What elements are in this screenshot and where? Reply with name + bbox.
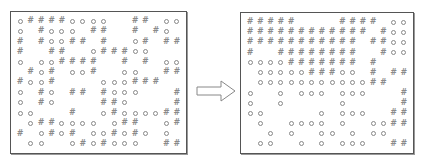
empty-cell	[317, 17, 327, 27]
empty-cell	[78, 26, 88, 36]
circle-symbol	[57, 118, 67, 128]
empty-cell	[255, 88, 265, 98]
circle-symbol	[36, 139, 46, 149]
empty-cell	[161, 77, 171, 87]
hash-symbol: #	[348, 17, 358, 27]
hash-symbol: #	[15, 47, 25, 57]
circle-symbol	[140, 108, 150, 118]
hash-symbol: #	[172, 108, 182, 118]
hash-symbol: #	[109, 47, 119, 57]
hash-symbol: #	[286, 47, 296, 57]
empty-cell	[276, 129, 286, 139]
hash-symbol: #	[67, 57, 77, 67]
empty-cell	[15, 118, 25, 128]
hash-symbol: #	[88, 26, 98, 36]
circle-symbol	[276, 68, 286, 78]
circle-symbol	[161, 118, 171, 128]
circle-symbol	[255, 108, 265, 118]
hash-symbol: #	[57, 47, 67, 57]
empty-cell	[266, 108, 276, 118]
empty-cell	[119, 26, 129, 36]
empty-cell	[151, 139, 161, 149]
hash-symbol: #	[109, 98, 119, 108]
hash-symbol: #	[36, 98, 46, 108]
empty-cell	[389, 98, 399, 108]
hash-symbol: #	[317, 58, 327, 68]
circle-symbol	[67, 139, 77, 149]
circle-symbol	[255, 78, 265, 88]
empty-cell	[286, 98, 296, 108]
circle-symbol	[140, 129, 150, 139]
circle-symbol	[161, 57, 171, 67]
circle-symbol	[67, 16, 77, 26]
empty-cell	[151, 47, 161, 57]
circle-symbol	[78, 118, 88, 128]
circle-symbol	[255, 139, 265, 149]
hash-symbol: #	[25, 67, 35, 77]
empty-cell	[358, 119, 368, 129]
hash-symbol: #	[389, 108, 399, 118]
hash-symbol: #	[140, 77, 150, 87]
circle-symbol	[25, 108, 35, 118]
hash-symbol: #	[348, 47, 358, 57]
empty-cell	[307, 98, 317, 108]
circle-symbol	[15, 98, 25, 108]
hash-symbol: #	[266, 27, 276, 37]
hash-symbol: #	[46, 118, 56, 128]
circle-symbol	[119, 77, 129, 87]
empty-cell	[358, 58, 368, 68]
hash-symbol: #	[399, 139, 409, 149]
hash-symbol: #	[337, 58, 347, 68]
hash-symbol: #	[399, 98, 409, 108]
circle-symbol	[119, 98, 129, 108]
circle-symbol	[286, 119, 296, 129]
hash-symbol: #	[46, 16, 56, 26]
circle-symbol	[348, 139, 358, 149]
hash-symbol: #	[255, 17, 265, 27]
hash-symbol: #	[368, 68, 378, 78]
hash-symbol: #	[67, 36, 77, 46]
circle-symbol	[348, 88, 358, 98]
hash-symbol: #	[36, 88, 46, 98]
empty-cell	[172, 77, 182, 87]
hash-symbol: #	[307, 37, 317, 47]
hash-symbol: #	[378, 47, 388, 57]
circle-symbol	[25, 139, 35, 149]
hash-symbol: #	[378, 27, 388, 37]
hash-symbol: #	[161, 108, 171, 118]
empty-cell	[389, 88, 399, 98]
empty-cell	[25, 36, 35, 46]
empty-cell	[25, 98, 35, 108]
empty-cell	[57, 139, 67, 149]
empty-cell	[57, 88, 67, 98]
hash-symbol: #	[358, 27, 368, 37]
circle-symbol	[88, 129, 98, 139]
after-grid-panel: ########################################…	[240, 12, 414, 154]
circle-symbol	[399, 37, 409, 47]
empty-cell	[368, 88, 378, 98]
empty-cell	[378, 98, 388, 108]
circle-symbol	[348, 108, 358, 118]
empty-cell	[307, 129, 317, 139]
circle-symbol	[276, 88, 286, 98]
circle-symbol	[337, 139, 347, 149]
empty-cell	[266, 47, 276, 57]
empty-cell	[276, 119, 286, 129]
circle-symbol	[389, 27, 399, 37]
hash-symbol: #	[88, 67, 98, 77]
hash-symbol: #	[399, 88, 409, 98]
empty-cell	[99, 57, 109, 67]
circle-symbol	[119, 129, 129, 139]
hash-symbol: #	[25, 16, 35, 26]
empty-cell	[378, 88, 388, 98]
hash-symbol: #	[286, 17, 296, 27]
empty-cell	[46, 139, 56, 149]
empty-cell	[172, 26, 182, 36]
circle-symbol	[368, 129, 378, 139]
circle-symbol	[399, 47, 409, 57]
hash-symbol: #	[296, 58, 306, 68]
circle-symbol	[337, 119, 347, 129]
circle-symbol	[46, 57, 56, 67]
right-arrow-icon	[196, 80, 236, 102]
empty-cell	[67, 98, 77, 108]
